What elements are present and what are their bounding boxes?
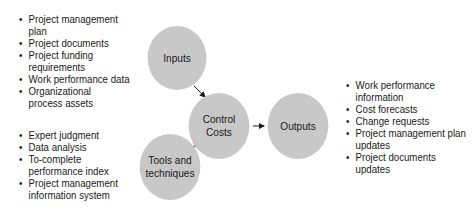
outputs-node: Outputs xyxy=(268,93,329,159)
outputs-list: Work performance information Cost foreca… xyxy=(345,79,468,175)
control-costs-label-line1: Control xyxy=(203,113,236,126)
outputs-label: Outputs xyxy=(280,120,315,133)
tools-techniques-list: Expert judgment Data analysis To-complet… xyxy=(18,129,132,201)
list-item: Project management information system xyxy=(18,177,127,201)
list-item: Project documents xyxy=(18,37,132,49)
tools-techniques-node: Tools and techniques xyxy=(140,134,201,200)
list-item: Project funding requirements xyxy=(18,49,117,73)
inputs-node: Inputs xyxy=(148,26,207,90)
list-item: Expert judgment xyxy=(18,129,132,141)
list-item: Change requests xyxy=(345,115,468,127)
inputs-list: Project management plan Project document… xyxy=(18,13,132,109)
control-costs-node: Control Costs xyxy=(189,93,250,159)
arrow-inputs-to-control xyxy=(194,86,205,97)
list-item: Organizational process assets xyxy=(18,85,127,109)
list-item: Project documents updates xyxy=(345,151,468,175)
tools-label-line2: techniques xyxy=(146,167,195,180)
list-item: To-complete performance index xyxy=(18,153,125,177)
list-item: Project management plan xyxy=(18,13,132,37)
list-item: Work performance information xyxy=(345,79,452,103)
inputs-label: Inputs xyxy=(163,52,191,65)
control-costs-label-line2: Costs xyxy=(203,126,236,139)
list-item: Work performance data xyxy=(18,73,132,85)
tools-label-line1: Tools and xyxy=(146,154,195,167)
list-item: Cost forecasts xyxy=(345,103,468,115)
list-item: Data analysis xyxy=(18,141,132,153)
list-item: Project management plan updates xyxy=(345,127,474,151)
